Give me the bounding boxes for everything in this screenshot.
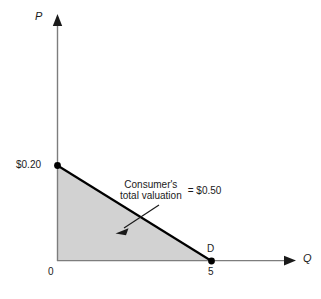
economics-demand-diagram: P Q $0.20 0 5 D Consumer's total valuati… — [0, 0, 321, 299]
y-axis-arrowhead-icon — [53, 14, 62, 26]
x-intercept-point — [208, 258, 215, 265]
annotation-value: = $0.50 — [188, 185, 222, 196]
y-intercept-point — [54, 162, 61, 169]
origin-label: 0 — [48, 266, 54, 277]
x-intercept-label: 5 — [208, 266, 214, 277]
y-intercept-label: $0.20 — [16, 159, 41, 170]
demand-curve-label: D — [207, 243, 214, 254]
annotation-line-1: Consumer's — [120, 179, 182, 190]
annotation-block: Consumer's total valuation = $0.50 — [120, 179, 221, 201]
diagram-canvas — [0, 0, 321, 299]
x-axis-arrowhead-icon — [284, 256, 296, 266]
x-axis-label: Q — [303, 253, 312, 264]
annotation-line-2: total valuation — [120, 190, 182, 201]
y-axis-label: P — [35, 11, 42, 22]
annotation-text: Consumer's total valuation — [120, 179, 182, 201]
